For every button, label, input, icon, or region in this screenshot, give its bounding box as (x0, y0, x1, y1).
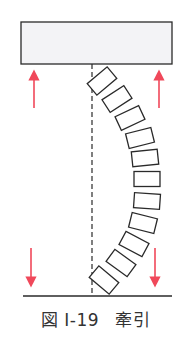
traction-diagram (0, 0, 191, 300)
vertebra-block (119, 231, 149, 256)
vertebra-block (115, 106, 145, 131)
vertebra-block (134, 172, 160, 187)
vertebra-block (126, 128, 155, 149)
vertebra-block (129, 213, 158, 234)
top-plate (21, 22, 172, 64)
vertebra-block (134, 193, 161, 210)
vertebra-block (89, 266, 119, 294)
vertebra-block (106, 249, 136, 276)
vertebra-blocks (87, 67, 160, 294)
figure-caption: 図 I-19牽引 (0, 306, 191, 331)
figure-number: 図 I-19 (41, 310, 99, 330)
vertebra-block (102, 86, 132, 113)
vertebra-block (131, 149, 158, 167)
figure-title: 牽引 (115, 310, 150, 330)
